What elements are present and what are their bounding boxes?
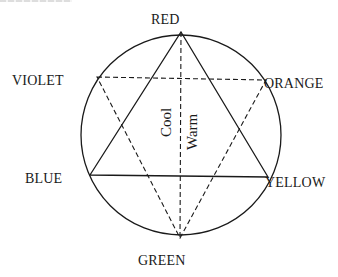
label-green: GREEN — [138, 254, 186, 268]
label-warm: Warm — [185, 114, 200, 150]
label-blue: BLUE — [25, 172, 62, 186]
label-orange: ORANGE — [264, 77, 324, 91]
label-violet: VIOLET — [12, 74, 64, 88]
primary-triangle — [90, 32, 268, 177]
label-red: RED — [151, 13, 180, 27]
color-wheel-diagram — [0, 0, 338, 277]
label-cool: Cool — [159, 108, 174, 137]
secondary-triangle — [97, 77, 266, 238]
cool-warm-divider — [180, 32, 181, 238]
label-yellow: YELLOW — [265, 176, 325, 190]
